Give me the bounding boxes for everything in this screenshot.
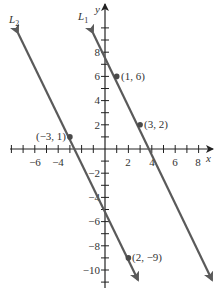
y-tick-label: 2 bbox=[95, 119, 101, 131]
point-label: (−3, 1) bbox=[36, 130, 66, 143]
point-2-neg9 bbox=[126, 255, 132, 261]
line-l1 bbox=[93, 33, 212, 280]
coordinate-plane: −6 −4 2 4 6 8 8 6 4 2 −2 −4 −6 −8 −10 x … bbox=[0, 0, 217, 289]
point-1-6 bbox=[114, 74, 120, 80]
point-label: (3, 2) bbox=[144, 118, 168, 131]
y-tick-label: −2 bbox=[88, 167, 100, 179]
point-neg3-1 bbox=[67, 134, 73, 140]
point-3-2 bbox=[137, 122, 143, 128]
x-tick-label: 2 bbox=[125, 156, 131, 168]
y-tick-label: 4 bbox=[95, 94, 101, 106]
y-tick-label: 6 bbox=[95, 70, 101, 82]
y-tick-label: −8 bbox=[88, 240, 100, 252]
x-tick-label: −6 bbox=[29, 156, 41, 168]
y-axis-label: y bbox=[94, 3, 100, 15]
y-tick-label: −6 bbox=[88, 215, 100, 227]
x-axis-label: x bbox=[205, 152, 211, 164]
line-l2-label: L2 bbox=[8, 13, 19, 28]
x-tick-label: 8 bbox=[195, 156, 201, 168]
x-tick-label: −4 bbox=[52, 156, 64, 168]
x-tick-label: 6 bbox=[172, 156, 178, 168]
line-l1-label: L1 bbox=[77, 10, 88, 25]
y-tick-label: −10 bbox=[83, 264, 101, 276]
point-label: (2, −9) bbox=[132, 251, 162, 264]
point-label: (1, 6) bbox=[121, 70, 145, 83]
